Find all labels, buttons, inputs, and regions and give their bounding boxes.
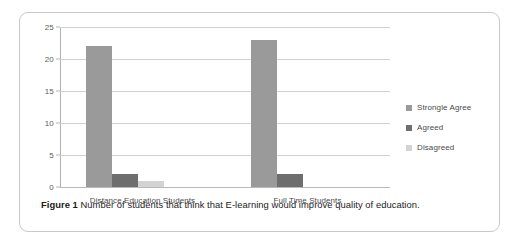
legend-swatch-icon [406, 145, 412, 151]
y-axis-tick-label: 25 [45, 23, 54, 32]
legend-item[interactable]: Disagreed [406, 143, 501, 152]
legend-item[interactable]: Strongle Agree [406, 103, 501, 112]
figure-caption: Figure 1 Number of students that think t… [41, 199, 486, 211]
bar [112, 174, 138, 187]
legend-label: Strongle Agree [417, 103, 471, 112]
bar [277, 174, 303, 187]
bar [86, 46, 112, 187]
figure-number: Figure 1 [41, 199, 78, 210]
chart-legend: Strongle AgreeAgreedDisagreed [406, 103, 501, 163]
bar-chart: 0510152025 Distance Education StudentsFu… [20, 15, 501, 205]
y-axis-tick-label: 5 [49, 151, 54, 160]
y-axis-tick-label: 15 [45, 87, 54, 96]
bar-group [251, 27, 390, 187]
figure-caption-body: Number of students that think that E-lea… [81, 199, 420, 210]
figure-card: 0510152025 Distance Education StudentsFu… [19, 12, 500, 232]
legend-swatch-icon [406, 125, 412, 131]
legend-swatch-icon [406, 105, 412, 111]
legend-label: Disagreed [417, 143, 454, 152]
bar [138, 181, 164, 187]
bar-group [86, 27, 225, 187]
legend-label: Agreed [417, 123, 443, 132]
gridline [60, 187, 390, 188]
y-axis-tick-label: 0 [49, 183, 54, 192]
bar [251, 40, 277, 187]
plot-area: 0510152025 Distance Education StudentsFu… [60, 27, 390, 187]
y-axis-tick-label: 10 [45, 119, 54, 128]
y-axis-tick-label: 20 [45, 55, 54, 64]
legend-item[interactable]: Agreed [406, 123, 501, 132]
bars-layer [60, 27, 390, 187]
